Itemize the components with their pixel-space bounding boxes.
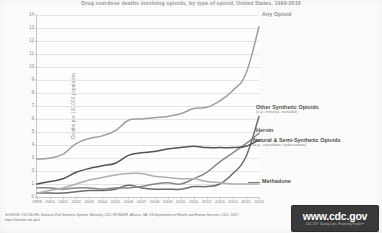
y-tick-label: 6	[31, 117, 34, 122]
annotation-natural-semi-synthetic-sub: (e.g., oxycodone, hydrocodone)	[253, 144, 341, 148]
x-tick-label: 2001	[58, 200, 68, 204]
annotation-methadone: Methadone	[262, 179, 291, 185]
x-tick-label: 2013	[215, 200, 225, 204]
annotation-heroin-label: Heroin	[256, 128, 273, 134]
annotation-methadone-label: Methadone	[262, 179, 291, 185]
y-tick-label: 11	[29, 52, 34, 57]
x-tick-label: 2003	[84, 200, 94, 204]
annotation-any-opioid-label: Any Opioid	[262, 12, 291, 18]
source-line-2: https://wonder.cdc.gov/.	[5, 218, 290, 223]
y-tick-label: 9	[31, 78, 34, 83]
cdc-logo-url: www.cdc.gov	[303, 211, 368, 222]
cdc-logo[interactable]: www.cdc.gov CDC 24/7: Saving Lives, Prot…	[292, 206, 378, 231]
source-line-1: SOURCE: CDC/NCHS, National Vital Statist…	[5, 213, 239, 217]
annotation-methadone-leader	[248, 182, 260, 183]
y-tick-label: 1	[31, 182, 34, 187]
cdc-logo-tagline: CDC 24/7: Saving Lives, Protecting Peopl…	[306, 223, 364, 226]
annotation-other-synthetic-sub: (e.g., fentanyl, tramadol)	[256, 111, 319, 115]
y-tick-label: 12	[29, 39, 34, 44]
x-tick-label: 2009	[163, 200, 173, 204]
annotation-other-synthetic: Other Synthetic Opioids (e.g., fentanyl,…	[256, 105, 319, 115]
series-line-natural-semi-synthetic-opioids	[37, 140, 259, 184]
page-title: Drug overdose deaths involving opioids, …	[0, 0, 382, 8]
x-tick-label: 2006	[124, 200, 134, 204]
x-tick-label: 2005	[111, 200, 121, 204]
series-line-methadone	[37, 173, 259, 193]
x-tick-label: 2011	[189, 200, 198, 204]
y-tick-label: 5	[31, 130, 34, 135]
y-tick-label: 14	[29, 13, 34, 18]
annotation-any-opioid: Any Opioid	[262, 12, 291, 18]
x-tick-label: 2008	[150, 200, 160, 204]
chart-page: Drug overdose deaths involving opioids, …	[0, 0, 382, 233]
y-tick-label: 7	[31, 104, 34, 109]
x-tick-label: 2007	[137, 200, 147, 204]
series-lines	[37, 15, 259, 197]
series-line-other-synthetic-opioids	[37, 116, 259, 193]
series-line-any-opioid	[37, 27, 259, 160]
x-tick-label: 2000	[45, 200, 55, 204]
y-tick-label: 8	[31, 91, 34, 96]
y-tick-label: 13	[29, 26, 34, 31]
x-tick-label: 1999	[32, 200, 42, 204]
y-tick-label: 4	[31, 143, 34, 148]
x-tick-label: 2015	[241, 200, 251, 204]
y-tick-label: 2	[31, 169, 34, 174]
x-tick-label: 2016	[254, 200, 264, 204]
y-tick-label: 10	[29, 65, 34, 70]
x-tick-label: 2012	[202, 200, 212, 204]
annotation-heroin: Heroin	[256, 128, 273, 134]
annotation-natural-semi-synthetic: Natural & Semi-Synthetic Opioids (e.g., …	[253, 138, 341, 148]
y-tick-label: 3	[31, 156, 34, 161]
x-tick-label: 2010	[176, 200, 186, 204]
x-tick-label: 2002	[71, 200, 81, 204]
x-tick-label: 2014	[228, 200, 238, 204]
x-tick-label: 2004	[98, 200, 108, 204]
plot-area: Deaths per 100,000 population 0123456789…	[36, 15, 259, 198]
source-note: SOURCE: CDC/NCHS, National Vital Statist…	[5, 213, 290, 223]
